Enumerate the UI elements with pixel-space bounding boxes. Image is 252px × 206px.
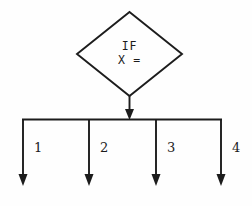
decision-to-bus-arrowhead (125, 109, 134, 120)
decision-text-line1: IF (122, 39, 137, 53)
branch-label-2: 2 (100, 140, 108, 155)
decision-text-line2: X = (118, 53, 141, 67)
branch-arrowhead-4 (217, 174, 226, 186)
branch-label-3: 3 (167, 140, 175, 155)
branch-label-4: 4 (232, 140, 240, 155)
branch-arrowhead-3 (152, 174, 161, 186)
branch-arrowhead-2 (85, 174, 94, 186)
branch-label-1: 1 (34, 140, 42, 155)
flowchart-svg: IF X = 1 2 3 4 (0, 0, 252, 206)
branch-arrowhead-1 (19, 174, 28, 186)
flowchart-canvas: IF X = 1 2 3 4 (0, 0, 252, 206)
